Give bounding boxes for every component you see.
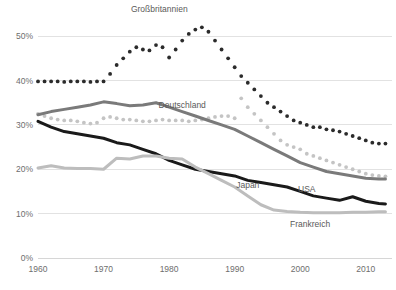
data-point (344, 132, 348, 136)
data-point (193, 28, 197, 32)
data-point (148, 119, 152, 123)
data-point (220, 48, 224, 52)
data-point (62, 80, 66, 84)
data-point (36, 80, 40, 84)
series-labels-group: GroßbritannienDeutschlandJapanUSAFrankre… (131, 4, 330, 229)
data-point (115, 116, 119, 120)
data-point (174, 48, 178, 52)
data-point (167, 119, 171, 123)
data-point (220, 114, 224, 118)
data-point (351, 134, 355, 138)
data-point (285, 143, 289, 147)
data-point (69, 119, 73, 123)
data-point (102, 80, 106, 84)
data-point (95, 121, 99, 125)
data-point (272, 105, 276, 109)
data-point (246, 105, 250, 109)
data-point (252, 112, 256, 116)
data-point (43, 80, 47, 84)
data-series-group (36, 25, 387, 212)
data-point (226, 114, 230, 118)
data-point (62, 119, 66, 123)
y-tick-label: 0% (21, 253, 34, 263)
data-point (141, 119, 145, 123)
x-tick-label: 2010 (356, 264, 375, 274)
data-point (305, 152, 309, 156)
data-point (272, 132, 276, 136)
data-point (154, 119, 158, 123)
data-point (266, 125, 270, 129)
data-point (259, 94, 263, 98)
data-point (364, 139, 368, 143)
data-point (364, 172, 368, 176)
series-label: USA (298, 184, 316, 194)
data-point (331, 128, 335, 132)
data-point (311, 125, 315, 129)
chart-canvas: 0%10%20%30%40%50% 1960197019801990200020… (0, 0, 396, 290)
data-point (233, 65, 237, 69)
data-point (56, 118, 60, 122)
data-point (174, 119, 178, 123)
data-point (115, 63, 119, 67)
data-point (226, 56, 230, 60)
data-point (187, 119, 191, 123)
data-point (377, 142, 381, 146)
data-point (325, 127, 329, 131)
data-point (128, 50, 132, 54)
data-point (279, 139, 283, 143)
data-point (252, 88, 256, 92)
data-point (134, 119, 138, 123)
data-point (305, 123, 309, 127)
data-point (266, 101, 270, 105)
gridlines (38, 36, 392, 258)
data-point (180, 119, 184, 123)
data-point (82, 80, 86, 84)
data-point (108, 115, 112, 119)
data-point (318, 156, 322, 160)
data-point (75, 119, 79, 123)
data-point (193, 119, 197, 123)
data-point (351, 167, 355, 171)
data-point (377, 174, 381, 178)
data-point (239, 96, 243, 100)
series-label: Großbritannien (131, 4, 188, 14)
y-tick-label: 10% (16, 209, 33, 219)
y-axis-ticks: 0%10%20%30%40%50% (16, 31, 33, 263)
series-label: Japan (236, 180, 259, 190)
data-point (56, 80, 60, 84)
data-point (285, 114, 289, 118)
data-point (344, 165, 348, 169)
data-point (292, 119, 296, 123)
data-point (49, 116, 53, 120)
data-point (298, 121, 302, 125)
data-point (102, 116, 106, 120)
x-axis-ticks: 196019701980199020002010 (29, 264, 376, 274)
data-point (167, 56, 171, 60)
data-point (357, 136, 361, 140)
data-point (161, 118, 165, 122)
data-point (121, 118, 125, 122)
data-point (161, 45, 165, 49)
data-point (213, 39, 217, 43)
data-point (207, 30, 211, 34)
data-point (187, 32, 191, 36)
data-point (200, 25, 204, 29)
x-tick-label: 1980 (160, 264, 179, 274)
data-point (233, 116, 237, 120)
data-point (128, 118, 132, 122)
series-label: Deutschland (159, 100, 207, 110)
data-point (384, 142, 388, 146)
data-point (370, 173, 374, 177)
x-tick-label: 2000 (291, 264, 310, 274)
data-point (75, 80, 79, 84)
data-point (259, 119, 263, 123)
data-point (325, 159, 329, 163)
x-tick-label: 1960 (29, 264, 48, 274)
y-tick-label: 30% (16, 120, 33, 130)
data-point (121, 56, 125, 60)
y-tick-label: 20% (16, 164, 33, 174)
series-label: Frankreich (290, 219, 330, 229)
data-point (338, 130, 342, 134)
data-point (49, 80, 53, 84)
data-point (338, 163, 342, 167)
